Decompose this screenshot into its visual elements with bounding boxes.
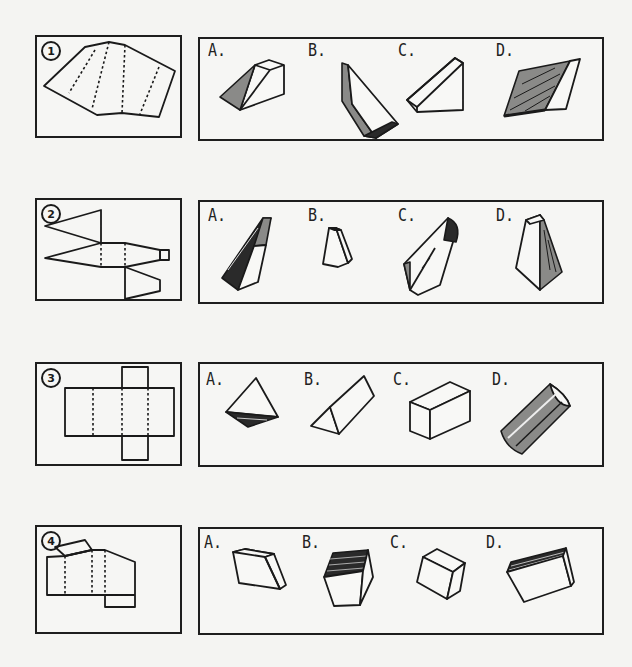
option-2b-frustum[interactable] [320, 223, 370, 293]
option-3a-tetrahedron[interactable] [222, 372, 292, 442]
option-4b-hatched-cube[interactable] [320, 547, 390, 617]
option-3b-triangular-prism[interactable] [308, 372, 378, 447]
option-2c-dark-top-solid[interactable] [400, 210, 480, 300]
option-2d-tall-frustum[interactable] [512, 210, 572, 300]
option-label-c[interactable]: C. [390, 532, 408, 553]
option-label-d[interactable]: D. [486, 532, 504, 553]
option-label-a[interactable]: A. [204, 532, 222, 553]
net-diagram-2 [37, 200, 184, 303]
question-3-options-box: A. B. C. D. [198, 362, 604, 467]
option-4c-tilted-block[interactable] [415, 547, 485, 617]
option-2a-shaded-prism[interactable] [218, 210, 298, 300]
net-diagram-4 [37, 527, 184, 636]
option-1a-wedge[interactable] [215, 54, 305, 124]
option-4a-wedge-block[interactable] [230, 547, 300, 607]
option-label-b[interactable]: B. [308, 40, 326, 61]
option-3d-half-cylinder[interactable] [498, 376, 578, 461]
option-1d-shaded-prism[interactable] [500, 56, 590, 126]
option-label-b[interactable]: B. [302, 532, 320, 553]
option-3c-box[interactable] [407, 379, 487, 454]
option-1c-wedge[interactable] [405, 55, 485, 130]
question-4-options-box: A. B. C. D. [198, 527, 604, 635]
net-diagram-3 [37, 364, 184, 468]
question-4-net-box: 4 [35, 525, 182, 634]
question-3-net-box: 3 [35, 362, 182, 466]
net-diagram-1 [37, 37, 184, 140]
question-1-net-box: 1 [35, 35, 182, 138]
question-2-net-box: 2 [35, 198, 182, 301]
question-2-options-box: A. B. C. D. [198, 200, 604, 304]
option-4d-flat-box[interactable] [505, 548, 585, 618]
question-1-options-box: A. B. C. D. [198, 37, 604, 141]
